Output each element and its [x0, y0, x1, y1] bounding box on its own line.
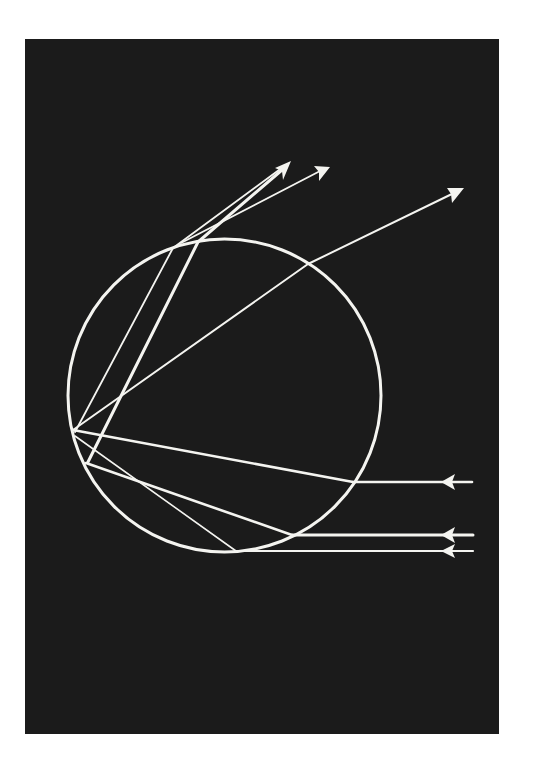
droplet-ray-diagram	[0, 0, 546, 772]
dark-panel	[25, 39, 499, 734]
